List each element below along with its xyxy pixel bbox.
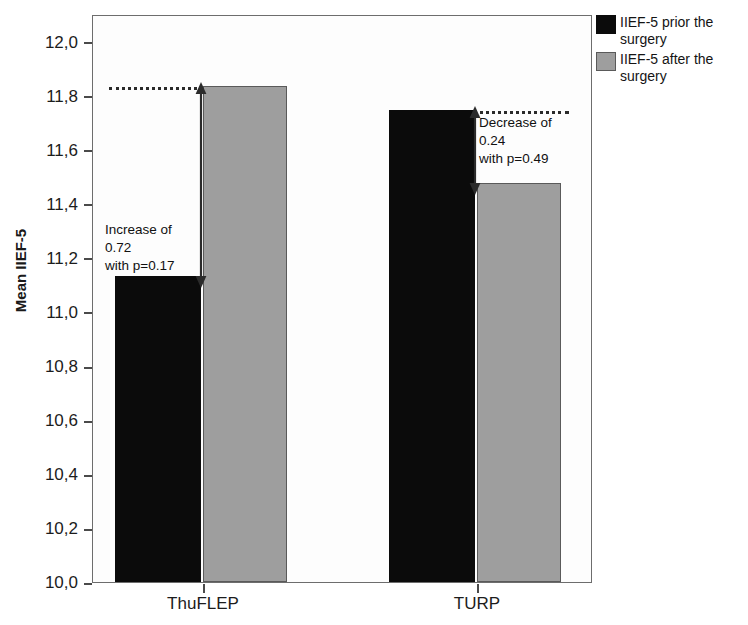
x-axis-label-thuflep: ThuFLEP bbox=[143, 594, 263, 614]
annotation-thuflep-line2: 0.72 bbox=[105, 239, 174, 257]
legend-swatch-after-icon bbox=[596, 52, 616, 71]
x-tick-mark-thuflep bbox=[203, 584, 205, 593]
plot-area: Increase of 0.72 with p=0.17 Decrease of… bbox=[92, 15, 592, 583]
bar-thuflep-after bbox=[203, 86, 287, 582]
y-tick-label-10-8: 10,8 bbox=[8, 358, 78, 375]
y-tick-label-10-6: 10,6 bbox=[8, 412, 78, 429]
y-tick-mark-10-8 bbox=[84, 367, 92, 369]
y-tick-mark-10-0 bbox=[84, 583, 92, 585]
y-tick-label-10-0: 10,0 bbox=[8, 574, 78, 591]
y-tick-mark-10-6 bbox=[84, 421, 92, 423]
annotation-turp-line2: 0.24 bbox=[479, 132, 552, 150]
annotation-thuflep-line1: Increase of bbox=[105, 221, 174, 239]
y-tick-mark-12-0 bbox=[84, 42, 92, 44]
x-axis-label-turp: TURP bbox=[427, 594, 527, 614]
y-tick-label-11-4: 11,4 bbox=[8, 196, 78, 213]
plot-inner: Increase of 0.72 with p=0.17 Decrease of… bbox=[93, 16, 591, 582]
annotation-thuflep-line3: with p=0.17 bbox=[105, 257, 174, 275]
legend-label-prior: IIEF-5 prior the surgery bbox=[620, 14, 746, 47]
y-tick-mark-11-6 bbox=[84, 150, 92, 152]
y-tick-mark-11-0 bbox=[84, 312, 92, 314]
y-tick-label-12-0: 12,0 bbox=[8, 34, 78, 51]
chart-legend: IIEF-5 prior the surgery IIEF-5 after th… bbox=[596, 14, 748, 88]
legend-label-after: IIEF-5 after the surgery bbox=[620, 51, 746, 84]
chart-figure: Mean IIEF-5 12,0 11,8 11,6 11,4 11,2 11,… bbox=[0, 0, 748, 625]
annotation-turp: Decrease of 0.24 with p=0.49 bbox=[479, 114, 552, 167]
y-tick-mark-11-2 bbox=[84, 258, 92, 260]
legend-swatch-prior-icon bbox=[596, 15, 616, 34]
y-tick-mark-11-8 bbox=[84, 96, 92, 98]
legend-item-prior[interactable]: IIEF-5 prior the surgery bbox=[596, 14, 748, 47]
annotation-turp-line1: Decrease of bbox=[479, 114, 552, 132]
x-tick-mark-turp bbox=[477, 584, 479, 593]
bar-thuflep-prior bbox=[115, 276, 201, 582]
y-tick-mark-11-4 bbox=[84, 204, 92, 206]
y-tick-label-10-2: 10,2 bbox=[8, 520, 78, 537]
bar-turp-after bbox=[477, 183, 561, 582]
y-tick-label-11-2: 11,2 bbox=[8, 250, 78, 267]
annotation-turp-line3: with p=0.49 bbox=[479, 150, 552, 168]
legend-item-after[interactable]: IIEF-5 after the surgery bbox=[596, 51, 748, 84]
delta-arrow-thuflep bbox=[189, 78, 213, 292]
y-tick-label-11-8: 11,8 bbox=[8, 88, 78, 105]
y-tick-mark-10-4 bbox=[84, 475, 92, 477]
y-tick-mark-10-2 bbox=[84, 529, 92, 531]
y-tick-label-11-6: 11,6 bbox=[8, 142, 78, 159]
y-tick-label-11-0: 11,0 bbox=[8, 304, 78, 321]
annotation-thuflep: Increase of 0.72 with p=0.17 bbox=[105, 221, 174, 274]
y-tick-label-10-4: 10,4 bbox=[8, 466, 78, 483]
